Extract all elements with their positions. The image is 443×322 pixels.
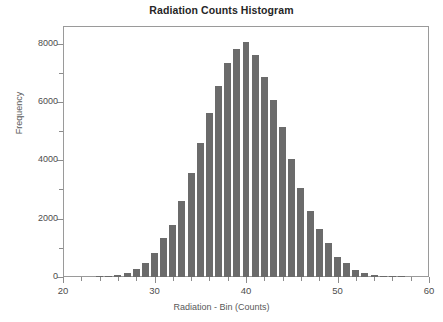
histogram-bar [124, 273, 131, 277]
x-tick-minor [374, 277, 375, 281]
histogram-bar [398, 276, 405, 277]
x-tick-minor [228, 277, 229, 281]
x-tick-major [338, 277, 339, 283]
bar-series [63, 26, 429, 277]
histogram-bar [279, 127, 286, 277]
x-tick-minor [356, 277, 357, 281]
y-tick-label: 6000 [18, 96, 58, 106]
x-tick-minor [301, 277, 302, 281]
x-axis-title: Radiation - Bin (Counts) [0, 302, 443, 312]
y-tick-label: 2000 [18, 213, 58, 223]
histogram-bar [343, 263, 350, 277]
chart-title: Radiation Counts Histogram [0, 4, 443, 16]
histogram-bar [243, 42, 250, 277]
x-tick-major [246, 277, 247, 283]
histogram-bar [270, 100, 277, 277]
x-tick-minor [392, 277, 393, 281]
y-axis-title: Frequency [14, 53, 24, 173]
histogram-bar [206, 113, 213, 277]
histogram-bar [151, 253, 158, 277]
x-tick-minor [319, 277, 320, 281]
y-tick-minor [59, 73, 63, 74]
histogram-bar [142, 263, 149, 277]
histogram-chart: Radiation Counts Histogram 0200040006000… [0, 0, 443, 322]
x-tick-minor [283, 277, 284, 281]
plot-area [63, 26, 429, 277]
x-tick-label: 50 [318, 285, 358, 296]
histogram-bar [261, 77, 268, 277]
x-tick-minor [191, 277, 192, 281]
histogram-bar [224, 63, 231, 277]
histogram-bar [215, 86, 222, 277]
x-tick-minor [100, 277, 101, 281]
x-tick-minor [264, 277, 265, 281]
histogram-bar [334, 257, 341, 277]
histogram-bar [352, 270, 359, 277]
histogram-bar [188, 173, 195, 277]
x-tick-label: 20 [43, 285, 83, 296]
x-tick-major [63, 277, 64, 283]
x-tick-major [155, 277, 156, 283]
histogram-bar [361, 273, 368, 277]
histogram-bar [160, 238, 167, 277]
y-tick-label: 4000 [18, 154, 58, 164]
histogram-bar [316, 229, 323, 277]
histogram-bar [169, 225, 176, 277]
x-tick-major [429, 277, 430, 283]
y-tick-minor [59, 189, 63, 190]
x-tick-label: 30 [135, 285, 175, 296]
histogram-bar [133, 269, 140, 277]
histogram-bar [252, 55, 259, 277]
histogram-bar [307, 211, 314, 277]
histogram-bar [380, 276, 387, 277]
y-tick-label: 8000 [18, 38, 58, 48]
histogram-bar [297, 188, 304, 277]
histogram-bar [197, 143, 204, 277]
x-tick-minor [136, 277, 137, 281]
x-tick-minor [118, 277, 119, 281]
x-tick-minor [173, 277, 174, 281]
x-tick-label: 60 [409, 285, 443, 296]
histogram-bar [288, 159, 295, 277]
x-tick-label: 40 [226, 285, 266, 296]
x-tick-minor [411, 277, 412, 281]
y-tick-label: 0 [18, 271, 58, 281]
histogram-bar [105, 276, 112, 277]
x-tick-minor [209, 277, 210, 281]
y-tick-minor [59, 131, 63, 132]
x-tick-minor [81, 277, 82, 281]
histogram-bar [325, 243, 332, 277]
histogram-bar [178, 201, 185, 277]
histogram-bar [233, 49, 240, 277]
y-tick-minor [59, 248, 63, 249]
